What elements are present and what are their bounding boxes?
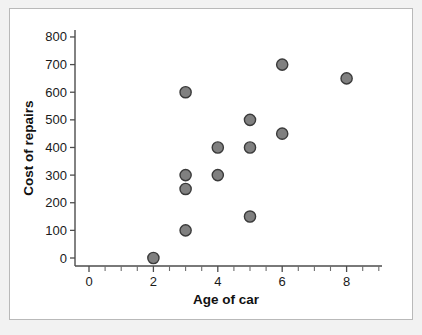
y-axis-title: Cost of repairs bbox=[21, 100, 36, 195]
x-tick-label: 4 bbox=[214, 274, 221, 289]
x-axis-title: Age of car bbox=[193, 292, 260, 307]
y-tick-label: 600 bbox=[45, 85, 67, 100]
y-tick-label: 100 bbox=[45, 223, 67, 238]
figure-root: 0100200300400500600700800 02468 Age of c… bbox=[0, 0, 422, 335]
y-tick-label: 700 bbox=[45, 57, 67, 72]
y-tick-label: 400 bbox=[45, 140, 67, 155]
data-point bbox=[277, 128, 288, 139]
y-axis: 0100200300400500600700800 bbox=[45, 29, 75, 266]
data-point bbox=[180, 170, 191, 181]
data-point bbox=[180, 225, 191, 236]
data-point bbox=[180, 87, 191, 98]
x-tick-label: 6 bbox=[279, 274, 286, 289]
x-tick-label: 2 bbox=[150, 274, 157, 289]
data-point bbox=[180, 183, 191, 194]
data-points-layer bbox=[148, 59, 352, 264]
data-point bbox=[244, 211, 255, 222]
data-point bbox=[244, 114, 255, 125]
y-tick-label: 800 bbox=[45, 29, 67, 44]
y-tick-label: 0 bbox=[60, 251, 67, 266]
data-point bbox=[244, 142, 255, 153]
y-tick-label: 300 bbox=[45, 168, 67, 183]
data-point bbox=[277, 59, 288, 70]
data-point bbox=[212, 142, 223, 153]
data-point bbox=[148, 252, 159, 263]
y-tick-label: 500 bbox=[45, 112, 67, 127]
x-tick-label: 8 bbox=[343, 274, 350, 289]
y-tick-label: 200 bbox=[45, 195, 67, 210]
x-axis: 02468 bbox=[75, 266, 382, 289]
x-tick-label: 0 bbox=[85, 274, 92, 289]
data-point bbox=[341, 73, 352, 84]
data-point bbox=[212, 170, 223, 181]
scatter-plot: 0100200300400500600700800 02468 Age of c… bbox=[0, 0, 422, 335]
